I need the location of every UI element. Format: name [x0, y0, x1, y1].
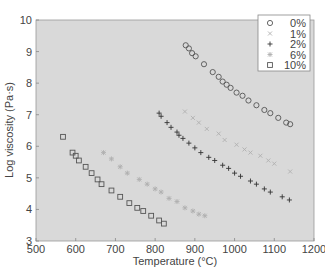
x-tick-label: 500	[27, 243, 45, 255]
legend-label: 10%	[284, 59, 306, 71]
x-tick-label: 700	[106, 243, 124, 255]
scatter-chart: 345678910 500600700800900100011001200 Te…	[0, 0, 325, 273]
y-tick-label: 5	[26, 172, 32, 184]
y-tick-label: 7	[26, 109, 32, 121]
y-tick-label: 6	[26, 140, 32, 152]
x-tick-label: 600	[67, 243, 85, 255]
x-tick-label: 1100	[262, 243, 286, 255]
y-tick-label: 4	[26, 203, 32, 215]
x-tick-label: 800	[146, 243, 164, 255]
y-axis-label: Log viscosity (Pa·s)	[3, 82, 15, 178]
x-tick-label: 1000	[222, 243, 246, 255]
y-tick-label: 8	[26, 77, 32, 89]
y-tick-label: 10	[20, 14, 32, 26]
legend: 0%1%2%6%10%	[258, 15, 310, 71]
x-axis-label: Temperature (°C)	[133, 255, 217, 267]
y-tick-label: 9	[26, 46, 32, 58]
x-tick-label: 900	[186, 243, 204, 255]
x-tick-label: 1200	[302, 243, 325, 255]
